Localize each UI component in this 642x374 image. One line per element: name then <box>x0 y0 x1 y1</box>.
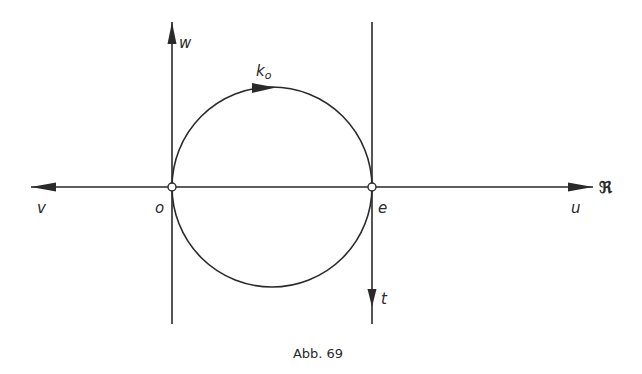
label-t: t <box>381 290 388 308</box>
circle-direction-arrow-icon <box>252 83 276 93</box>
left-arrow-icon <box>31 183 56 192</box>
point-o <box>168 183 176 191</box>
down-arrow-icon <box>368 289 377 307</box>
diagram-figure: w ko v o e u ℜ t Abb. 69 <box>0 0 642 374</box>
label-k0: ko <box>256 62 272 82</box>
label-w: w <box>179 34 192 52</box>
right-arrow-icon <box>568 183 593 192</box>
label-o: o <box>155 199 164 217</box>
up-arrow-icon <box>168 22 177 44</box>
figure-caption: Abb. 69 <box>293 346 343 361</box>
label-u: u <box>571 199 581 217</box>
label-real-axis: ℜ <box>599 178 613 197</box>
label-v: v <box>37 199 47 217</box>
point-e <box>368 183 376 191</box>
label-e: e <box>378 199 387 217</box>
